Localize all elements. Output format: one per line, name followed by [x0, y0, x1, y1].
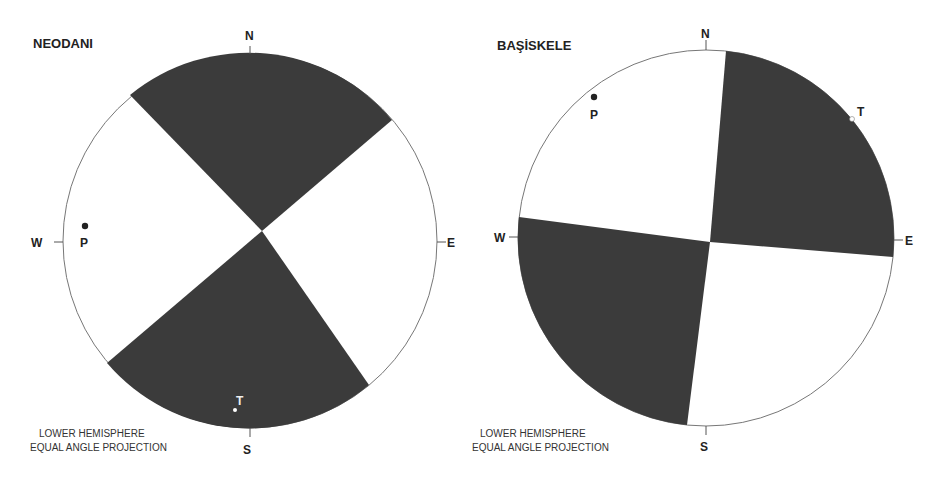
beachball-neodani: P T	[54, 46, 446, 437]
projection-note-line1: LOWER HEMISPHERE	[480, 428, 586, 439]
projection-note-line2: EQUAL ANGLE PROJECTION	[472, 442, 609, 453]
projection-note-line2: EQUAL ANGLE PROJECTION	[30, 442, 167, 453]
t-axis-marker	[850, 117, 855, 122]
direction-n: N	[245, 29, 254, 43]
diagram-title-basiskele: BAŞİSKELE	[497, 38, 572, 53]
beachball-basiskele: P T	[509, 40, 903, 435]
t-axis-marker	[233, 408, 237, 412]
p-axis-marker	[591, 94, 597, 100]
p-axis-label: P	[590, 108, 598, 122]
diagram-title-neodani: NEODANI	[33, 36, 93, 51]
direction-w: W	[31, 236, 43, 250]
p-axis-marker	[82, 223, 88, 229]
focal-mechanism-figure: P T NEODANI N S W E LOWER HEMISPHERE EQU…	[0, 0, 948, 483]
direction-e: E	[905, 234, 913, 248]
projection-note-line1: LOWER HEMISPHERE	[39, 428, 145, 439]
t-axis-label: T	[236, 394, 244, 408]
direction-e: E	[447, 236, 455, 250]
t-axis-label: T	[857, 105, 865, 119]
p-axis-label: P	[80, 236, 88, 250]
direction-s: S	[243, 443, 251, 457]
compression-quadrant-east	[710, 51, 894, 257]
direction-s: S	[700, 440, 708, 454]
compression-quadrant-west	[518, 217, 710, 425]
direction-w: W	[494, 231, 506, 245]
direction-n: N	[701, 27, 710, 41]
